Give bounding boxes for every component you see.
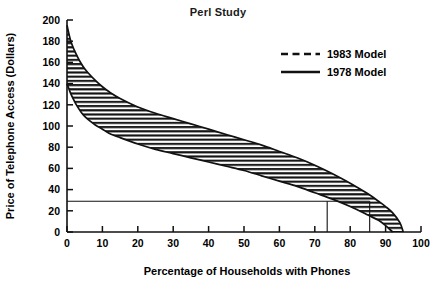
y-tick-label: 40 <box>48 183 60 195</box>
legend-label-1983-model: 1983 Model <box>327 48 386 60</box>
x-tick-label: 90 <box>380 237 392 249</box>
y-tick-label: 200 <box>42 14 60 26</box>
y-tick-label: 80 <box>48 141 60 153</box>
x-tick-label: 60 <box>274 237 286 249</box>
y-tick-label: 20 <box>48 205 60 217</box>
x-tick-label: 50 <box>238 237 250 249</box>
chart-plot-area: 020406080100120140160180200 010203040506… <box>0 0 436 284</box>
x-tick-label: 30 <box>167 237 179 249</box>
x-axis-title: Percentage of Households with Phones <box>144 265 351 277</box>
x-axis-tick-labels: 0102030405060708090100 <box>64 237 430 249</box>
y-axis-tick-labels: 020406080100120140160180200 <box>42 14 60 238</box>
x-tick-label: 20 <box>132 237 144 249</box>
x-tick-label: 0 <box>64 237 70 249</box>
x-tick-label: 40 <box>203 237 215 249</box>
x-tick-label: 10 <box>97 237 109 249</box>
chart-legend: 1983 Model 1978 Model <box>281 48 386 78</box>
reference-lines <box>67 201 370 232</box>
y-tick-label: 0 <box>54 226 60 238</box>
y-tick-label: 160 <box>42 56 60 68</box>
x-tick-label: 80 <box>344 237 356 249</box>
y-tick-label: 60 <box>48 162 60 174</box>
chart-figure: Perl Study 020406080100120140160180200 0… <box>0 0 436 284</box>
x-tick-label: 70 <box>309 237 321 249</box>
y-tick-label: 180 <box>42 35 60 47</box>
y-tick-label: 120 <box>42 99 60 111</box>
y-tick-label: 100 <box>42 120 60 132</box>
y-tick-label: 140 <box>42 77 60 89</box>
x-tick-label: 100 <box>412 237 430 249</box>
x-axis-ticks <box>67 226 421 232</box>
y-axis-title: Price of Telephone Access (Dollars) <box>4 32 16 219</box>
legend-label-1978-model: 1978 Model <box>327 66 386 78</box>
